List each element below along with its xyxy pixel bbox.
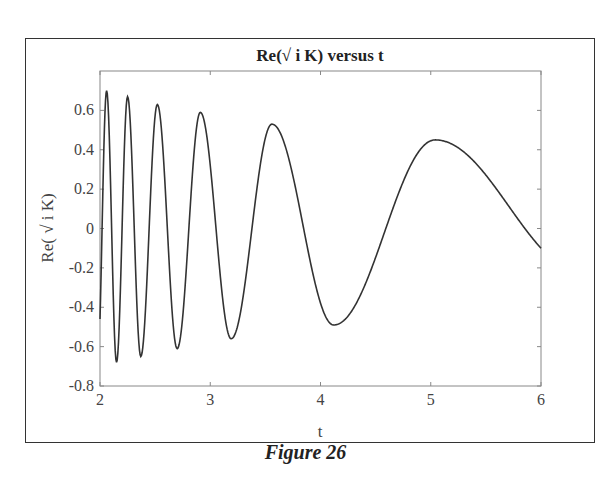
chart-title: Re(√ i K) versus t [256,46,384,65]
x-tick-label: 4 [317,391,325,408]
figure-caption: Figure 26 [0,441,611,464]
y-tick-labels: -0.8-0.6-0.4-0.200.20.40.6 [69,101,94,394]
y-tick-label: -0.8 [69,377,94,394]
y-tick-label: -0.2 [69,259,94,276]
y-tick-label: 0.6 [74,101,94,118]
y-tick-label: -0.6 [69,338,94,355]
x-tick-label: 6 [537,391,545,408]
plot-area [100,71,541,386]
x-axis-label: t [318,422,323,441]
y-tick-label: 0 [86,220,94,237]
y-tick-label: 0.4 [74,141,94,158]
x-tick-label: 3 [206,391,214,408]
chart: 23456 -0.8-0.6-0.4-0.200.20.40.6 Re(√ i … [0,0,611,489]
x-tick-labels: 23456 [96,391,545,408]
y-tick-label: -0.4 [69,298,94,315]
x-tick-label: 5 [427,391,435,408]
x-tick-label: 2 [96,391,104,408]
y-axis-label: Re( √ i K) [38,193,57,262]
data-line [100,91,541,363]
y-tick-label: 0.2 [74,180,94,197]
axis-ticks [100,71,541,386]
